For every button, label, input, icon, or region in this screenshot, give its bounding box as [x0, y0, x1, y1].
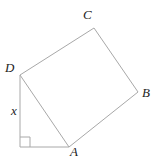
vertex-label-b: B	[142, 85, 150, 100]
square-abcd-outline	[20, 28, 138, 147]
vertex-label-d: D	[5, 60, 14, 75]
diagram-canvas: C D B A x	[0, 0, 154, 159]
vertex-label-c: C	[83, 7, 92, 22]
vertex-label-a: A	[70, 144, 78, 159]
geometry-figure	[0, 0, 154, 159]
side-length-label-x: x	[11, 103, 17, 118]
right-angle-mark	[20, 137, 30, 147]
